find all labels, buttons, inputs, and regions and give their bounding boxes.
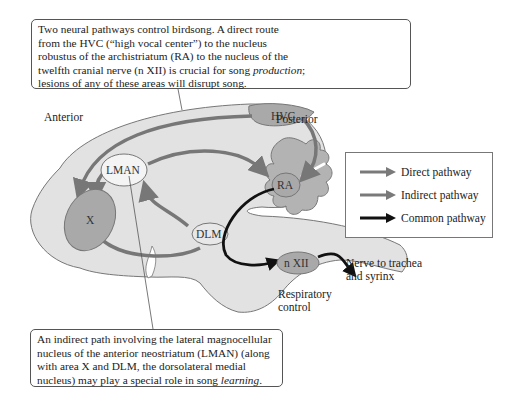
callout-text: . <box>259 374 262 386</box>
callout-top-line: lesions of any of these areas will disru… <box>38 77 405 91</box>
direct-pathway-callout: Two neural pathways control birdsong. A … <box>31 19 411 89</box>
nerve-label: Nerve to trachea and syrinx <box>346 257 422 283</box>
legend-label: Direct pathway <box>401 166 472 178</box>
legend-item-direct: Direct pathway <box>360 163 472 181</box>
legend-label: Indirect pathway <box>401 189 479 201</box>
callout-text: ; <box>302 64 305 76</box>
direct-arrow-icon <box>360 167 396 177</box>
callout-top-line: twelfth cranial nerve (n XII) is crucial… <box>38 64 405 78</box>
legend-item-indirect: Indirect pathway <box>360 186 479 204</box>
respiratory-label-line: control <box>278 301 332 314</box>
dlm-label: DLM <box>196 228 222 240</box>
callout-bottom-line: An indirect path involving the lateral m… <box>37 333 277 347</box>
callout-text: nucleus) may play a special role in song <box>37 374 221 386</box>
nxii-label: n XII <box>284 257 309 269</box>
callout-emphasis: production <box>253 64 302 76</box>
callout-bottom-line: with area X and DLM, the dorsolateral me… <box>37 360 277 374</box>
respiratory-label: Respiratory control <box>278 288 332 314</box>
legend: Direct pathway Indirect pathway Common p… <box>345 152 493 238</box>
ra-label: RA <box>277 179 294 191</box>
callout-emphasis: learning <box>221 374 259 386</box>
legend-item-common: Common pathway <box>360 209 486 227</box>
callout-text: twelfth cranial nerve (n XII) is crucial… <box>38 64 253 76</box>
anterior-label: Anterior <box>44 111 83 123</box>
legend-label: Common pathway <box>401 212 486 224</box>
callout-top-line: from the HVC (“high vocal center”) to th… <box>38 37 405 51</box>
indirect-arrow-icon <box>360 190 396 200</box>
callout-bottom-line: nucleus of the anterior neostriatum (LMA… <box>37 347 277 361</box>
callout-top-line: Two neural pathways control birdsong. A … <box>38 23 405 37</box>
nerve-label-line: Nerve to trachea <box>346 257 422 270</box>
lman-label: LMAN <box>106 164 141 176</box>
indirect-pathway-callout: An indirect path involving the lateral m… <box>30 329 283 387</box>
callout-bottom-line: nucleus) may play a special role in song… <box>37 374 277 388</box>
posterior-label: Posterior <box>276 113 318 125</box>
leader-top-callout <box>178 89 182 110</box>
nerve-label-line: and syrinx <box>346 270 422 283</box>
callout-top-line: robustus of the archistriatum (RA) to th… <box>38 50 405 64</box>
common-arrow-icon <box>360 213 396 223</box>
x-label: X <box>86 214 95 226</box>
respiratory-label-line: Respiratory <box>278 288 332 301</box>
